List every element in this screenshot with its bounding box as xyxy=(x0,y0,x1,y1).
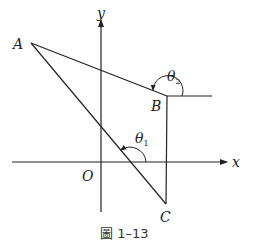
segment-bc xyxy=(166,96,167,204)
point-label-a: A xyxy=(11,36,23,52)
origin-label: O xyxy=(82,168,94,184)
segment-ac xyxy=(31,43,166,204)
theta2-label: θ2 xyxy=(167,68,181,86)
theta1-label: θ1 xyxy=(135,130,149,148)
x-axis-label: x xyxy=(232,154,240,170)
figure-caption: 圖 1–13 xyxy=(100,226,148,241)
point-label-c: C xyxy=(160,209,171,225)
segment-ab xyxy=(31,43,167,96)
y-axis-label: y xyxy=(96,5,106,21)
diagram-canvas: A B C O x y θ2 θ1 圖 1–13 xyxy=(0,0,253,244)
point-label-b: B xyxy=(150,98,161,114)
